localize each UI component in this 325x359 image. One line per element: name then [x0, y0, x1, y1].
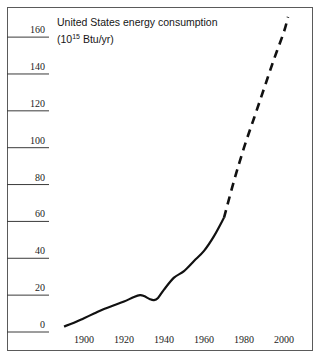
y-axis-tick-label: 0: [5, 319, 45, 330]
y-axis-tick-label: 60: [5, 208, 45, 219]
x-axis-tick-label: 1940: [144, 334, 184, 345]
y-axis-tick-label: 140: [5, 61, 45, 72]
y-axis-tick-label: 120: [5, 98, 45, 109]
data-series-group: [64, 17, 288, 327]
y-axis-tick-label: 100: [5, 135, 45, 146]
chart-plot-canvas: [0, 0, 325, 359]
historical-series-line: [64, 218, 224, 327]
chart-figure: United States energy consumption (1015 B…: [0, 0, 325, 359]
y-axis-tick-label: 80: [5, 172, 45, 183]
x-axis-tick-label: 1980: [224, 334, 264, 345]
y-axis-tick-label: 20: [5, 282, 45, 293]
y-axis-tick-label: 160: [5, 24, 45, 35]
x-axis-tick-label: 1900: [64, 334, 104, 345]
x-axis-tick-label: 2000: [264, 334, 304, 345]
x-axis-tick-label: 1960: [184, 334, 224, 345]
x-axis-tick-label: 1920: [104, 334, 144, 345]
projected-series-line: [224, 17, 288, 218]
y-axis-tick-label: 40: [5, 245, 45, 256]
